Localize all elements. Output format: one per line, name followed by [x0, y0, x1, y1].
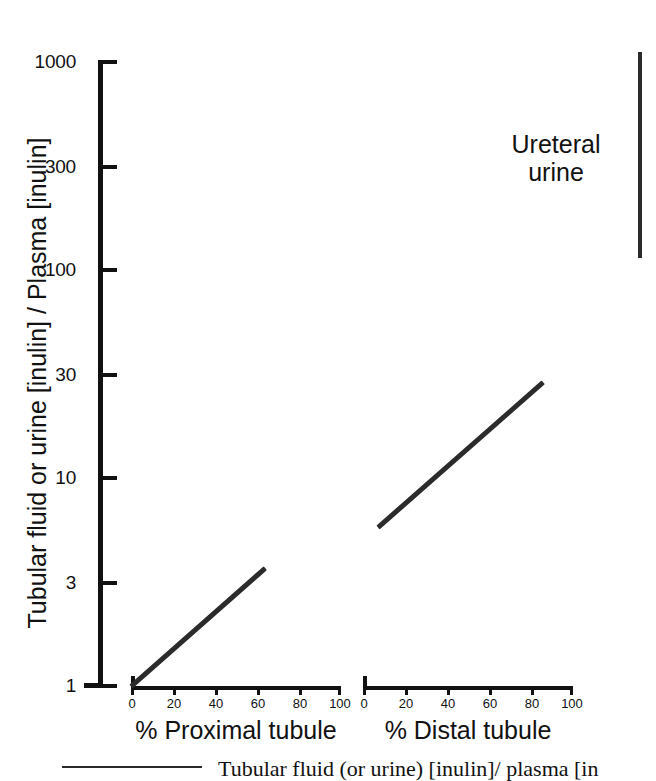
y-tick-1000 — [103, 60, 117, 64]
y-tick-3 — [103, 581, 117, 585]
x-tick-label-proximal-0: 0 — [117, 697, 147, 710]
y-tick-label-1000: 1000 — [24, 52, 76, 71]
x-tick-distal-60 — [489, 686, 492, 695]
x-tick-label-proximal-20: 20 — [159, 697, 189, 710]
x-axis-spine-distal — [363, 686, 572, 690]
y-tick-1 — [103, 684, 117, 688]
x-tick-label-distal-80: 80 — [517, 697, 547, 710]
x-tick-proximal-40 — [215, 686, 218, 695]
x-tick-proximal-100 — [338, 686, 341, 695]
x-tick-label-proximal-80: 80 — [285, 697, 315, 710]
data-line-distal — [376, 381, 544, 530]
data-line-proximal — [129, 566, 267, 688]
x-tick-proximal-80 — [299, 686, 302, 695]
y-tick-100 — [103, 268, 117, 272]
x-axis-title-distal: % Distal tubule — [340, 717, 596, 744]
x-tick-label-proximal-60: 60 — [243, 697, 273, 710]
x-tick-distal-80 — [531, 686, 534, 695]
caption-rule — [62, 766, 202, 768]
ureteral-urine-label-line2: urine — [486, 158, 626, 186]
x-tick-label-distal-0: 0 — [349, 697, 379, 710]
x-tick-proximal-20 — [173, 686, 176, 695]
y-axis-foot — [84, 683, 103, 688]
ureteral-urine-bar — [638, 52, 642, 258]
x-tick-distal-0 — [363, 686, 366, 695]
x-tick-label-distal-60: 60 — [475, 697, 505, 710]
x-axis-spine-proximal — [131, 686, 340, 690]
x-tick-distal-100 — [570, 686, 573, 695]
y-tick-10 — [103, 476, 117, 480]
x-tick-label-proximal-40: 40 — [201, 697, 231, 710]
y-tick-300 — [103, 165, 117, 169]
ureteral-urine-label-line1: Ureteral — [486, 130, 626, 158]
caption-text: Tubular fluid (or urine) [inulin]/ plasm… — [218, 757, 656, 781]
x-tick-label-distal-20: 20 — [391, 697, 421, 710]
x-tick-distal-20 — [405, 686, 408, 695]
x-tick-distal-40 — [447, 686, 450, 695]
y-axis-title: Tubular fluid or urine [inulin] / Plasma… — [24, 78, 50, 688]
y-tick-30 — [103, 373, 117, 377]
x-axis-title-proximal: % Proximal tubule — [108, 717, 364, 744]
x-tick-proximal-60 — [257, 686, 260, 695]
x-tick-label-distal-100: 100 — [557, 697, 587, 710]
x-tick-label-distal-40: 40 — [433, 697, 463, 710]
